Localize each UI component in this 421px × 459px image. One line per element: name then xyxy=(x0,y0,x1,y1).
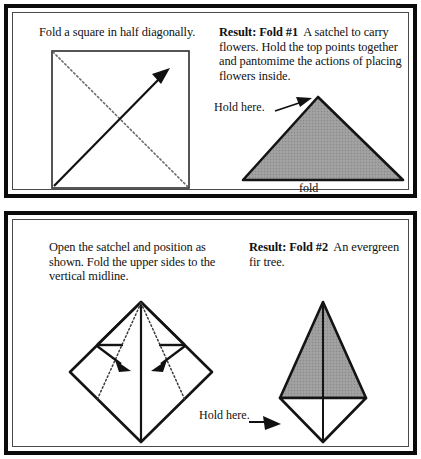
fold-2-hold-here-label: Hold here. xyxy=(199,409,250,422)
fold-2-instruction-text: Open the satchel and position as shown. … xyxy=(49,240,241,284)
fold-1-panel-body: Fold a square in half diagonally. xyxy=(13,13,408,189)
square-fold-svg xyxy=(39,43,199,193)
diamond-fold-svg xyxy=(53,288,233,448)
satchel-triangle-svg xyxy=(219,81,419,199)
diamond-fold-figure xyxy=(53,288,233,448)
fold-2-panel: Open the satchel and position as shown. … xyxy=(4,211,417,455)
fir-tree-svg xyxy=(249,288,399,448)
fold-1-result-heading: Result: Fold #1 xyxy=(219,25,298,39)
fold-2-result-heading: Result: Fold #2 xyxy=(249,240,328,254)
fold-1-result-text: Result: Fold #1 A satchel to carry flowe… xyxy=(219,25,415,83)
fold-2-panel-body: Open the satchel and position as shown. … xyxy=(13,220,408,446)
satchel-triangle-figure xyxy=(219,81,419,199)
fold-1-panel: Fold a square in half diagonally. xyxy=(4,4,417,198)
fir-tree-figure xyxy=(249,288,399,448)
square-with-diagonal-fold-figure xyxy=(39,43,199,193)
hold-here-arrow-shaft xyxy=(275,102,302,111)
fold-1-hold-here-label: Hold here. xyxy=(214,101,265,114)
fold-2-result-text: Result: Fold #2 An evergreen fir tree. xyxy=(249,240,409,269)
fold-1-panel-inner-border: Fold a square in half diagonally. xyxy=(12,12,409,190)
satchel-triangle-shape xyxy=(243,97,403,180)
fold-2-panel-inner-border: Open the satchel and position as shown. … xyxy=(12,219,409,447)
instruction-sheet: Fold a square in half diagonally. xyxy=(0,0,421,459)
fold-1-instruction-text: Fold a square in half diagonally. xyxy=(39,25,229,40)
fold-1-base-label: fold xyxy=(299,182,318,195)
fold-2-hold-here-arrow-head xyxy=(263,416,281,430)
